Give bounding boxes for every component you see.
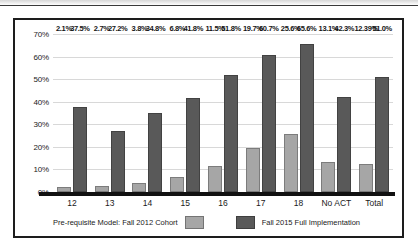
bar-value-label: 37.5% bbox=[70, 24, 90, 33]
bar-value-label: 34.8% bbox=[146, 24, 166, 33]
legend-swatch-series-a bbox=[185, 216, 204, 229]
bar[interactable]: 42.3% bbox=[337, 97, 351, 192]
x-axis-label: 12 bbox=[53, 198, 91, 208]
bar[interactable]: 25.6% bbox=[284, 134, 298, 192]
scan-top-divider bbox=[0, 5, 418, 6]
bar-group: 2.7%27.2% bbox=[91, 34, 129, 192]
bar-value-label: 51.0% bbox=[372, 24, 392, 33]
x-axis-category-labels: 12131415161718No ACTTotal bbox=[53, 198, 393, 208]
legend-label-series-b: Fall 2015 Full Implementation bbox=[262, 218, 360, 227]
bar-value-label: 51.8% bbox=[221, 24, 241, 33]
bar-group: 12.39%51.0% bbox=[355, 34, 393, 192]
y-axis-tick-label: 50% bbox=[15, 75, 49, 84]
x-axis-label: 16 bbox=[204, 198, 242, 208]
chart-legend: Pre-requisite Model: Fall 2012 Cohort Fa… bbox=[53, 216, 383, 229]
bar-wrapper: 25.6% bbox=[284, 34, 298, 192]
bar-wrapper: 3.8% bbox=[132, 34, 146, 192]
bar[interactable]: 65.6% bbox=[300, 44, 314, 192]
bar[interactable]: 41.8% bbox=[186, 98, 200, 192]
bar-wrapper: 11.5% bbox=[208, 34, 222, 192]
bar-group: 2.1%37.5% bbox=[53, 34, 91, 192]
legend-swatch-series-b bbox=[236, 216, 255, 229]
x-axis-label: 13 bbox=[91, 198, 129, 208]
bar-wrapper: 37.5% bbox=[73, 34, 87, 192]
bar-wrapper: 2.1% bbox=[57, 34, 71, 192]
x-axis-label: 15 bbox=[166, 198, 204, 208]
bar[interactable]: 11.5% bbox=[208, 166, 222, 192]
bar-wrapper: 51.8% bbox=[224, 34, 238, 192]
y-axis-tick-label: 40% bbox=[15, 97, 49, 106]
y-axis-tick-label: 20% bbox=[15, 142, 49, 151]
bar-wrapper: 12.39% bbox=[359, 34, 373, 192]
bar-group: 25.6%65.6% bbox=[280, 34, 318, 192]
bar-value-label: 60.7% bbox=[259, 24, 279, 33]
bar-groups: 2.1%37.5%2.7%27.2%3.8%34.8%6.8%41.8%11.5… bbox=[53, 34, 393, 192]
y-axis-tick-label: 10% bbox=[15, 165, 49, 174]
bar[interactable]: 51.0% bbox=[375, 77, 389, 192]
x-axis-label: 17 bbox=[242, 198, 280, 208]
bar-wrapper: 6.8% bbox=[170, 34, 184, 192]
y-axis-tick-label: 60% bbox=[15, 52, 49, 61]
bar-value-label: 65.6% bbox=[297, 24, 317, 33]
bar-wrapper: 34.8% bbox=[148, 34, 162, 192]
y-axis-tick-label: 70% bbox=[15, 30, 49, 39]
y-axis-tick-label: 30% bbox=[15, 120, 49, 129]
bar-wrapper: 60.7% bbox=[262, 34, 276, 192]
x-axis-label: No ACT bbox=[317, 198, 355, 208]
bar-group: 6.8%41.8% bbox=[166, 34, 204, 192]
legend-label-series-a: Pre-requisite Model: Fall 2012 Cohort bbox=[53, 218, 178, 227]
bar[interactable]: 37.5% bbox=[73, 107, 87, 192]
bar-wrapper: 2.7% bbox=[95, 34, 109, 192]
bar[interactable]: 13.1% bbox=[321, 162, 335, 192]
bar-group: 19.7%60.7% bbox=[242, 34, 280, 192]
bar[interactable]: 34.8% bbox=[148, 113, 162, 192]
bar[interactable]: 51.8% bbox=[224, 75, 238, 192]
bar-value-label: 42.3% bbox=[335, 24, 355, 33]
x-axis-label: Total bbox=[355, 198, 393, 208]
plot-area: 0%10%20%30%40%50%60%70% 2.1%37.5%2.7%27.… bbox=[53, 34, 393, 192]
bar-wrapper: 27.2% bbox=[111, 34, 125, 192]
bar-wrapper: 19.7% bbox=[246, 34, 260, 192]
legend-entry-series-b: Fall 2015 Full Implementation bbox=[236, 216, 360, 229]
x-axis-label: 18 bbox=[280, 198, 318, 208]
legend-entry-series-a: Pre-requisite Model: Fall 2012 Cohort bbox=[53, 216, 204, 229]
bar-value-label: 27.2% bbox=[108, 24, 128, 33]
x-axis-baseline bbox=[39, 192, 395, 196]
bar-value-label: 41.8% bbox=[183, 24, 203, 33]
bar-wrapper: 41.8% bbox=[186, 34, 200, 192]
bar[interactable]: 12.39% bbox=[359, 164, 373, 192]
x-axis-label: 14 bbox=[129, 198, 167, 208]
bar-group: 11.5%51.8% bbox=[204, 34, 242, 192]
bar-wrapper: 51.0% bbox=[375, 34, 389, 192]
bar[interactable]: 3.8% bbox=[132, 183, 146, 192]
bar-group: 13.1%42.3% bbox=[317, 34, 355, 192]
bar-wrapper: 13.1% bbox=[321, 34, 335, 192]
bar[interactable]: 60.7% bbox=[262, 55, 276, 192]
bar[interactable]: 6.8% bbox=[170, 177, 184, 192]
bar[interactable]: 27.2% bbox=[111, 131, 125, 192]
chart-frame: 0%10%20%30%40%50%60%70% 2.1%37.5%2.7%27.… bbox=[13, 18, 404, 238]
bar-wrapper: 65.6% bbox=[300, 34, 314, 192]
bar-group: 3.8%34.8% bbox=[129, 34, 167, 192]
bar[interactable]: 19.7% bbox=[246, 148, 260, 192]
bar-wrapper: 42.3% bbox=[337, 34, 351, 192]
